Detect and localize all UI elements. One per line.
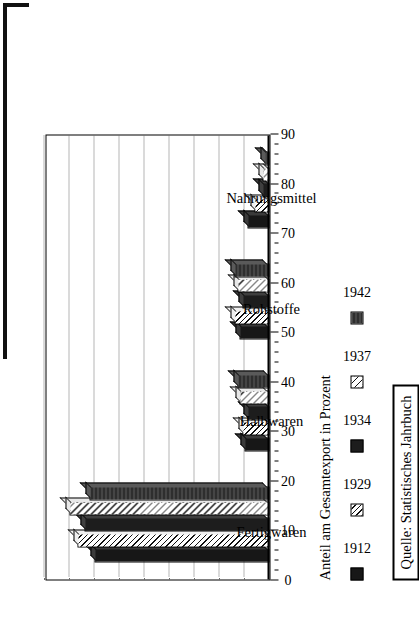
bar-face (245, 438, 268, 450)
value-tick-label: 0 (271, 573, 305, 588)
axis-tick-minor (274, 520, 278, 521)
axis-tick-minor (274, 440, 278, 441)
bar-face (238, 279, 269, 291)
bar-halbwaren-1912 (244, 437, 269, 451)
legend-item-1912: 1912 (349, 534, 364, 580)
legend-item-1942: 1942 (349, 278, 364, 324)
bar-face (95, 549, 268, 561)
legend-swatch-1937 (350, 375, 363, 388)
axis-tick-minor (274, 252, 278, 253)
bar-face (240, 391, 268, 403)
axis-tick-minor (274, 292, 278, 293)
bar-face (235, 264, 268, 276)
bar-fertigwaren-1942 (89, 486, 269, 500)
axis-tick-minor (274, 411, 278, 412)
axis-tick-minor (274, 351, 278, 352)
axis-tick-minor (274, 153, 278, 154)
value-tick-label: 40 (271, 374, 305, 389)
legend: 19121929193419371942 (345, 134, 367, 580)
axis-tick-minor (274, 450, 278, 451)
axis-tick-minor (274, 321, 278, 322)
axis-tick-minor (274, 559, 278, 560)
bar-rohstoffe-1937 (237, 278, 270, 292)
legend-swatch-1942 (350, 311, 363, 324)
axis-tick-minor (274, 272, 278, 273)
axis-tick-minor (274, 371, 278, 372)
axis-tick-minor (274, 539, 278, 540)
bar-nahrungsmittel-1912 (247, 214, 270, 228)
axis-tick-minor (274, 460, 278, 461)
value-tick-label: 50 (271, 325, 305, 340)
axis-tick-minor (274, 470, 278, 471)
axis-tick-minor (274, 500, 278, 501)
bar-face (240, 326, 268, 338)
legend-item-1934: 1934 (349, 406, 364, 452)
legend-label-1929: 1929 (342, 477, 370, 492)
legend-swatch-1929 (350, 503, 363, 516)
axis-tick-minor (274, 212, 278, 213)
bar-face (70, 502, 268, 514)
legend-label-1942: 1942 (342, 285, 370, 300)
bar-face (90, 487, 268, 499)
bar-face (238, 375, 269, 387)
bar-rohstoffe-1912 (239, 325, 269, 339)
legend-label-1937: 1937 (342, 349, 370, 364)
value-axis-title: Anteil am Gesamtexport in Prozent (316, 134, 332, 580)
axis-tick-minor (274, 361, 278, 362)
gridline (43, 135, 44, 579)
legend-label-1934: 1934 (342, 413, 370, 428)
legend-label-1912: 1912 (342, 541, 370, 556)
source-note-box: Quelle: Statistisches Jahrbuch (392, 384, 419, 580)
value-tick-label: 70 (271, 226, 305, 241)
value-tick-label: 60 (271, 275, 305, 290)
axis-tick-minor (274, 401, 278, 402)
axis-tick-minor (274, 222, 278, 223)
value-tick-label: 90 (271, 127, 305, 142)
axis-tick-minor (274, 242, 278, 243)
axis-tick-minor (274, 569, 278, 570)
axis-tick-minor (274, 490, 278, 491)
legend-swatch-1934 (350, 439, 363, 452)
axis-tick-minor (274, 549, 278, 550)
legend-item-1937: 1937 (349, 342, 364, 388)
legend-item-1929: 1929 (349, 470, 364, 516)
bar-fertigwaren-1937 (69, 501, 269, 515)
value-tick-label: 20 (271, 473, 305, 488)
axis-tick-minor (274, 341, 278, 342)
bar-halbwaren-1937 (239, 390, 269, 404)
bar-halbwaren-1942 (237, 374, 270, 388)
axis-tick-minor (274, 143, 278, 144)
axis-tick-minor (274, 173, 278, 174)
axis-tick-minor (274, 163, 278, 164)
bar-face (248, 215, 269, 227)
bar-rohstoffe-1942 (234, 263, 269, 277)
axis-tick-minor (274, 391, 278, 392)
legend-swatch-1912 (350, 567, 363, 580)
bar-fertigwaren-1912 (94, 548, 269, 562)
axis-tick-minor (274, 262, 278, 263)
axis-tick-minor (274, 510, 278, 511)
